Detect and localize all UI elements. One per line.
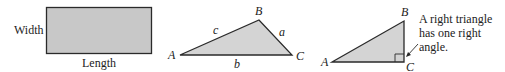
width-label: Width [14, 23, 44, 37]
rectangle-shape [47, 8, 152, 54]
triangle-abc: A B C c a b [167, 4, 305, 71]
vertex-a-label: A [320, 55, 329, 69]
side-a-label: a [279, 25, 285, 39]
length-label: Length [82, 56, 116, 70]
rectangle-figure: Width Length [14, 8, 152, 71]
annotation-line-2: has one right [419, 26, 482, 40]
vertex-c-label: C [296, 49, 305, 63]
right-triangle-shape [332, 21, 404, 62]
vertex-b-label: B [401, 5, 409, 19]
geometry-figures: Width Length A B C c a b A B C A right t… [0, 0, 505, 72]
vertex-c-label: C [406, 60, 415, 72]
side-b-label: b [234, 57, 240, 71]
annotation-line-3: angle. [419, 40, 448, 54]
right-triangle: A B C A right triangle has one right ang… [320, 5, 492, 72]
vertex-a-label: A [167, 48, 176, 62]
annotation-line-1: A right triangle [419, 12, 492, 26]
side-c-label: c [213, 23, 219, 37]
vertex-b-label: B [255, 4, 263, 18]
triangle-shape [180, 20, 292, 55]
